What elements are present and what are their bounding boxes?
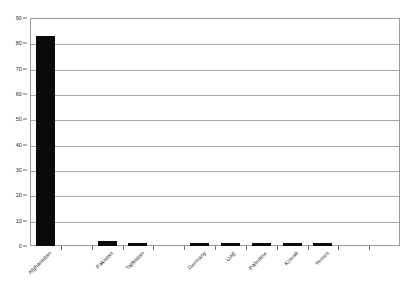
y-tick-mark — [23, 144, 27, 145]
gridline — [31, 120, 399, 121]
y-tick-mark — [23, 246, 27, 247]
x-tick-label: UAE — [225, 250, 237, 262]
x-tick-label: Pakistan — [95, 250, 115, 270]
y-tick-label: 60 — [16, 91, 22, 97]
y-tick-mark — [23, 220, 27, 221]
gridline — [31, 70, 399, 71]
gridline — [31, 146, 399, 147]
y-axis: 0102030405060708090 — [0, 18, 27, 246]
x-tick-label: Kuwait — [283, 250, 299, 266]
y-tick-label: 80 — [16, 40, 22, 46]
y-tick-mark — [23, 195, 27, 196]
y-tick-mark — [23, 94, 27, 95]
x-tick-label: Palestine — [248, 250, 269, 271]
gridline — [31, 95, 399, 96]
x-tick-label: Germany — [186, 250, 207, 271]
y-tick-label: 70 — [16, 66, 22, 72]
gridline — [31, 171, 399, 172]
gridline — [31, 44, 399, 45]
bar-chart: 0102030405060708090 AfghanistanPakistanT… — [0, 0, 420, 296]
gridline — [31, 222, 399, 223]
x-tick-label: Afghanistan — [27, 250, 53, 276]
y-tick-mark — [23, 68, 27, 69]
gridline — [31, 196, 399, 197]
y-tick-label: 0 — [19, 243, 22, 249]
y-tick-label: 40 — [16, 142, 22, 148]
y-tick-label: 30 — [16, 167, 22, 173]
x-axis: AfghanistanPakistanTajikistanGermanyUAEP… — [30, 250, 400, 296]
y-tick-label: 90 — [16, 15, 22, 21]
x-tick-label: Tajikistan — [124, 250, 145, 271]
y-tick-mark — [23, 170, 27, 171]
y-tick-mark — [23, 18, 27, 19]
y-tick-mark — [23, 43, 27, 44]
y-tick-label: 20 — [16, 192, 22, 198]
x-tick-label: Yemen — [314, 250, 331, 267]
y-tick-label: 10 — [16, 218, 22, 224]
y-tick-mark — [23, 119, 27, 120]
y-tick-label: 50 — [16, 116, 22, 122]
plot-area — [30, 18, 400, 246]
